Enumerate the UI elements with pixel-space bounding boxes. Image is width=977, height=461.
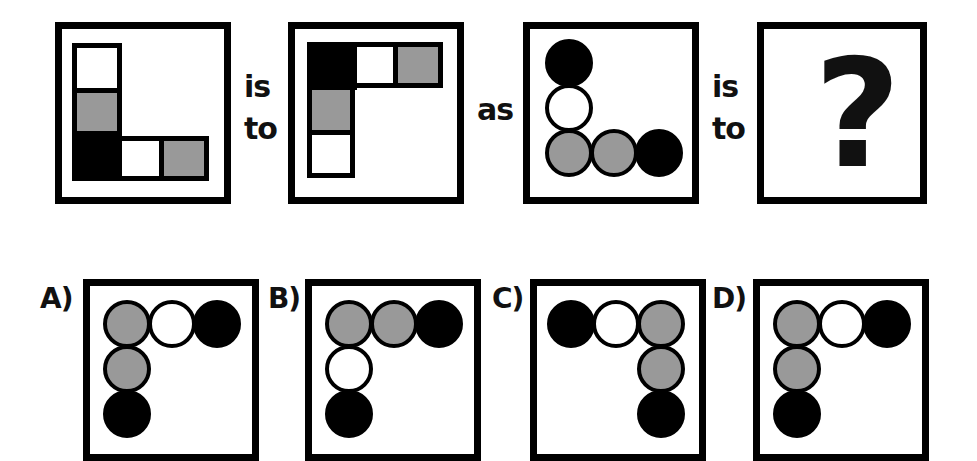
square-white [307, 130, 355, 178]
circle-gray [370, 300, 418, 348]
option-a-label: A) [40, 282, 72, 315]
square-gray [307, 85, 355, 135]
option-d-label: D) [712, 282, 746, 315]
circle-white [545, 84, 593, 132]
option-b[interactable] [305, 279, 481, 461]
square-white [72, 43, 122, 93]
circle-black [545, 39, 593, 87]
question-panel-3 [523, 22, 699, 204]
question-panel-1 [55, 22, 231, 204]
option-a[interactable] [83, 279, 259, 461]
square-gray [72, 88, 122, 136]
circle-gray [325, 300, 373, 348]
option-c-label: C) [492, 282, 523, 315]
circle-gray [637, 345, 685, 393]
option-b-label: B) [268, 282, 300, 315]
square-gray [159, 136, 209, 181]
circle-gray [590, 129, 638, 177]
connector-is: is [244, 70, 270, 104]
circle-white [325, 345, 373, 393]
question-mark-icon: ? [814, 39, 901, 189]
circle-gray [103, 345, 151, 393]
connector-to: to [244, 112, 277, 146]
circle-black [193, 300, 241, 348]
circle-white [148, 300, 196, 348]
circle-white [818, 300, 866, 348]
circle-black [103, 390, 151, 438]
circle-black [547, 300, 595, 348]
circle-gray [103, 300, 151, 348]
connector-as: as [477, 93, 513, 127]
circle-gray [773, 300, 821, 348]
circle-black [415, 300, 463, 348]
circle-black [635, 129, 683, 177]
option-c[interactable] [530, 279, 706, 461]
circle-gray [545, 129, 593, 177]
question-panel-unknown: ? [757, 22, 927, 204]
circle-black [637, 390, 685, 438]
square-black [72, 131, 122, 181]
square-white [352, 42, 398, 88]
square-white [117, 136, 164, 181]
circle-white [592, 300, 640, 348]
circle-gray [637, 300, 685, 348]
square-black [307, 42, 357, 90]
circle-black [863, 300, 911, 348]
question-panel-2 [288, 22, 464, 204]
circle-black [773, 390, 821, 438]
option-d[interactable] [753, 279, 929, 461]
connector-is: is [712, 70, 738, 104]
circle-black [325, 390, 373, 438]
circle-gray [773, 345, 821, 393]
square-gray [393, 42, 443, 88]
connector-to: to [712, 112, 745, 146]
